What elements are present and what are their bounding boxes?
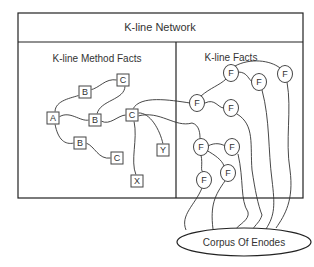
fact-node-f: F [196,171,212,189]
method-node-b: B [79,86,92,99]
method-node-b: B [89,114,102,127]
facts-title: K-line Facts [205,52,258,63]
fact-node-f: F [193,138,209,156]
method-node-b: B [74,137,87,150]
method-node-x: X [131,175,144,188]
fact-node-f: F [223,64,239,82]
method-node-c: C [126,109,139,122]
method-facts-title: K-line Method Facts [53,53,142,64]
method-connections [55,80,200,175]
fact-node-f: F [220,164,236,182]
k-line-network-diagram: K-line Network K-line Method Facts K-lin… [0,0,314,267]
network-frame [18,13,303,198]
method-node-c: C [111,152,124,165]
fact-node-f: F [189,94,205,112]
diagram-lines [0,0,314,267]
fact-node-f: F [223,99,239,117]
diagram-title: K-line Network [124,21,196,33]
fact-node-f: F [277,65,293,83]
method-node-y: Y [157,144,170,157]
corpus-label: Corpus Of Enodes [203,237,285,248]
fact-node-f: F [251,73,267,91]
method-node-c: C [117,74,130,87]
method-node-a: A [47,112,60,125]
fact-node-f: F [224,138,240,156]
